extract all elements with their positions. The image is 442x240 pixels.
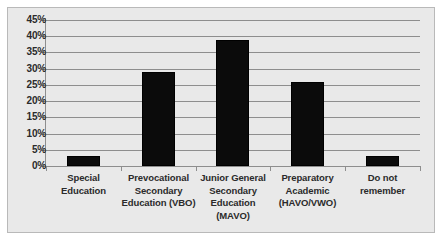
y-axis-label-0: 0% — [6, 161, 46, 171]
bar-do-not-remember — [366, 156, 399, 166]
x-tick-1 — [121, 167, 122, 171]
x-axis-label-special-education: Special Education — [46, 172, 121, 197]
gridline-40 — [46, 36, 420, 37]
bar-preparatory-havo-vwo — [291, 82, 324, 166]
y-axis-label-45: 45% — [6, 15, 46, 25]
x-axis-label-line: Education — [192, 197, 274, 210]
x-axis-label-line: Education — [46, 185, 121, 198]
x-tick-4 — [345, 167, 346, 171]
x-tick-3 — [270, 167, 271, 171]
x-axis-label-line: Do not — [345, 172, 420, 185]
y-axis-label-30: 30% — [6, 64, 46, 74]
x-axis-label-line: Secondary — [192, 185, 274, 198]
y-axis-label-35: 35% — [6, 47, 46, 57]
x-axis-label-preparatory-havo-vwo: Preparatory Academic (HAVO/VWO) — [268, 172, 347, 210]
x-axis-line — [45, 166, 421, 167]
x-axis-label-do-not-remember: Do not remember — [345, 172, 420, 197]
bar-junior-general-mavo — [216, 40, 249, 166]
x-tick-0 — [46, 167, 47, 171]
y-axis-label-15: 15% — [6, 112, 46, 122]
y-axis-label-40: 40% — [6, 31, 46, 41]
x-axis-label-line: (HAVO/VWO) — [268, 197, 347, 210]
bar-chart: 45% 40% 35% 30% 25% 20% 15% 10% 5% 0% Sp… — [0, 0, 442, 240]
y-axis-label-25: 25% — [6, 80, 46, 90]
x-axis-label-junior-general-mavo: Junior General Secondary Education (MAVO… — [192, 172, 274, 222]
x-axis-label-line: Education (VBO) — [117, 197, 200, 210]
x-axis-label-line: Junior General — [192, 172, 274, 185]
bar-prevocational-vbo — [142, 72, 175, 166]
x-axis-label-line: Secondary — [117, 185, 200, 198]
x-axis-label-line: remember — [345, 185, 420, 198]
x-axis-label-line: Special — [46, 172, 121, 185]
y-axis-label-20: 20% — [6, 96, 46, 106]
x-axis-label-line: Prevocational — [117, 172, 200, 185]
y-axis-label-5: 5% — [6, 145, 46, 155]
x-tick-5 — [420, 167, 421, 171]
x-axis-label-line: Preparatory — [268, 172, 347, 185]
x-axis-label-prevocational-vbo: Prevocational Secondary Education (VBO) — [117, 172, 200, 210]
x-axis-label-line: Academic — [268, 185, 347, 198]
y-axis-label-10: 10% — [6, 129, 46, 139]
x-axis-label-line: (MAVO) — [192, 210, 274, 223]
x-tick-2 — [196, 167, 197, 171]
gridline-45 — [46, 20, 420, 21]
bar-special-education — [67, 156, 100, 166]
